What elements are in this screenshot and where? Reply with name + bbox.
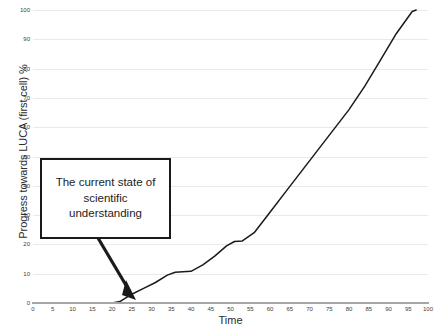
annotation-line-2: scientific bbox=[83, 191, 127, 207]
y-tick-label: 60 bbox=[0, 124, 30, 131]
x-axis-title: Time bbox=[33, 314, 428, 326]
plot-area bbox=[33, 10, 428, 303]
x-axis-line bbox=[33, 302, 429, 304]
y-axis-tick-labels: 0102030405060708090100 bbox=[0, 10, 30, 303]
y-tick-label: 100 bbox=[0, 7, 30, 14]
x-tick-label: 100 bbox=[416, 305, 439, 313]
y-tick-label: 10 bbox=[0, 270, 30, 277]
y-tick-label: 70 bbox=[0, 94, 30, 101]
y-tick-label: 80 bbox=[0, 65, 30, 72]
y-tick-label: 30 bbox=[0, 212, 30, 219]
annotation-line-3: understanding bbox=[69, 206, 142, 222]
annotation-line-1: The current state of bbox=[56, 175, 156, 191]
y-tick-label: 90 bbox=[0, 36, 30, 43]
y-tick-label: 40 bbox=[0, 182, 30, 189]
y-tick-label: 50 bbox=[0, 153, 30, 160]
y-tick-label: 20 bbox=[0, 241, 30, 248]
chart-container: Progress towards LUCA (first cell) % 010… bbox=[0, 0, 439, 333]
annotation-callout: The current state of scientific understa… bbox=[40, 158, 171, 239]
data-curve bbox=[33, 10, 428, 303]
